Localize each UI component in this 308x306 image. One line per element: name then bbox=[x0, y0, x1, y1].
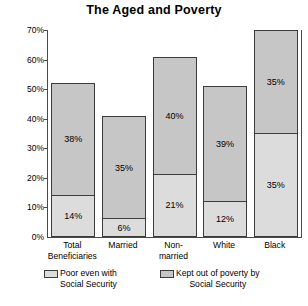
y-axis-tick-label: 40% bbox=[4, 114, 44, 124]
y-axis-tick-mark bbox=[44, 207, 48, 208]
legend-swatch-poor-icon bbox=[44, 270, 58, 278]
y-axis-tick-mark bbox=[44, 89, 48, 90]
bar-segment-kept-out[interactable]: 38% bbox=[51, 83, 95, 195]
bar-segment-poor[interactable]: 14% bbox=[51, 196, 95, 237]
x-axis-label-line: Non- bbox=[164, 240, 183, 250]
x-axis-label: Black bbox=[244, 240, 306, 251]
bar-total-beneficiaries[interactable]: 38%14% bbox=[51, 83, 95, 237]
bar-segment-kept-out[interactable]: 35% bbox=[254, 30, 298, 134]
y-axis-tick-label: 10% bbox=[4, 202, 44, 212]
y-axis-tick-mark bbox=[44, 148, 48, 149]
y-axis-tick-mark bbox=[44, 119, 48, 120]
legend-label-poor-line2: Social Security bbox=[60, 279, 117, 289]
x-axis-label-line: Black bbox=[264, 240, 285, 250]
y-axis-tick-label: 20% bbox=[4, 173, 44, 183]
chart-page: The Aged and Poverty 70%60%50%40%30%20%1… bbox=[0, 0, 308, 306]
chart-title: The Aged and Poverty bbox=[0, 3, 308, 17]
legend-item-poor: Poor even with Social Security bbox=[44, 268, 117, 289]
bar-black[interactable]: 35%35% bbox=[254, 30, 298, 237]
y-axis-tick-mark bbox=[44, 60, 48, 61]
bar-segment-poor[interactable]: 21% bbox=[153, 175, 197, 237]
legend-label-kept-out-line2: Social Security bbox=[189, 279, 246, 289]
bar-non-married[interactable]: 40%21% bbox=[153, 57, 197, 237]
x-axis-label-line: Beneficiaries bbox=[48, 251, 97, 261]
chart-legend: Poor even with Social Security Kept out … bbox=[0, 268, 308, 302]
y-axis-tick-label: 30% bbox=[4, 143, 44, 153]
bar-segment-poor[interactable]: 6% bbox=[102, 219, 146, 237]
bar-segment-poor[interactable]: 35% bbox=[254, 134, 298, 238]
legend-label-kept-out-line1: Kept out of poverty by bbox=[176, 268, 260, 278]
bar-segment-kept-out[interactable]: 40% bbox=[153, 57, 197, 175]
y-axis-tick-label: 0% bbox=[4, 232, 44, 242]
bar-married[interactable]: 35%6% bbox=[102, 116, 146, 237]
x-axis-label-line: Married bbox=[108, 240, 137, 250]
y-axis-tick-label: 50% bbox=[4, 84, 44, 94]
x-axis-label-line: married bbox=[159, 251, 188, 261]
bar-segment-kept-out[interactable]: 35% bbox=[102, 116, 146, 220]
bar-white[interactable]: 39%12% bbox=[203, 86, 247, 237]
legend-swatch-kept-out-icon bbox=[160, 270, 174, 278]
bar-segment-kept-out[interactable]: 39% bbox=[203, 86, 247, 201]
bar-segment-poor[interactable]: 12% bbox=[203, 202, 247, 237]
y-axis-tick-label: 60% bbox=[4, 55, 44, 65]
y-axis-tick-label: 70% bbox=[4, 25, 44, 35]
legend-label-poor-line1: Poor even with bbox=[60, 268, 117, 278]
plot-area: 38%14%35%6%40%21%39%12%35%35% bbox=[47, 30, 302, 238]
y-axis-tick-mark bbox=[44, 178, 48, 179]
x-axis-label-line: Total bbox=[63, 240, 81, 250]
y-axis-tick-mark bbox=[44, 30, 48, 31]
x-axis-label-line: White bbox=[213, 240, 235, 250]
legend-item-kept-out: Kept out of poverty by Social Security bbox=[160, 268, 260, 289]
